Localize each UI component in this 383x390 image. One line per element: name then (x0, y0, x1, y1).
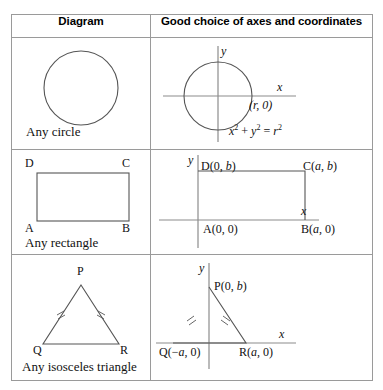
circle-equation-label: x2 + y2 = r2 (229, 124, 282, 139)
eq-y-exp: 2 (256, 123, 260, 132)
cell-circle-diagram: Any circle (12, 38, 151, 150)
tri-x-axis-label: x (279, 327, 284, 342)
tri-coord-p-label: P(0, b) (214, 279, 247, 294)
rect-coord-c-label: C(a, b) (303, 159, 337, 174)
rect-vertex-a-label: A (25, 221, 34, 236)
table: Diagram Good choice of axes and coordina… (11, 14, 373, 381)
tri-coord-q-label: Q(−a, 0) (159, 345, 200, 360)
cell-triangle-coordinates: y x P(0, b) Q(−a, 0) R(a, 0) (151, 255, 373, 381)
circle-point-label: (r, 0) (249, 98, 272, 113)
triangle-axes-diagram (151, 255, 372, 380)
cell-circle-coordinates: y x (r, 0) x2 + y2 = r2 (151, 38, 373, 150)
eq-r-exp: 2 (278, 123, 282, 132)
rect-coord-d-label: D(0, b) (201, 159, 236, 174)
tri-y-axis-label: y (199, 261, 204, 276)
caption-any-rectangle: Any rectangle (25, 235, 98, 251)
caption-any-circle: Any circle (26, 124, 81, 140)
tri-vertex-r-label: R (120, 343, 128, 358)
table-row-triangle: P Q R Any isosceles triangle (12, 255, 373, 381)
rect-vertex-b-label: B (122, 221, 130, 236)
rect-vertex-c-label: C (122, 156, 130, 171)
tri-coord-r-label: R(a, 0) (239, 345, 273, 360)
tick-marks-left (187, 316, 196, 325)
caption-any-isosceles-triangle: Any isosceles triangle (22, 359, 137, 375)
rectangle-axes-diagram (151, 150, 372, 254)
eq-plus: + (241, 124, 248, 138)
rect-coord-b-label: B(a, 0) (301, 222, 335, 237)
eq-equals: = (263, 124, 270, 138)
table-row-rectangle: D C A B Any rectangle (12, 150, 373, 255)
circle-x-axis-label: x (277, 80, 282, 95)
cell-triangle-diagram: P Q R Any isosceles triangle (12, 255, 151, 381)
table-header-row: Diagram Good choice of axes and coordina… (12, 15, 373, 38)
circle-y-axis-label: y (221, 44, 226, 59)
cell-rectangle-diagram: D C A B Any rectangle (12, 150, 151, 255)
geometry-reference-table: Diagram Good choice of axes and coordina… (11, 14, 372, 379)
rect-vertex-d-label: D (25, 156, 34, 171)
cell-rectangle-coordinates: y x D(0, b) C(a, b) A(0, 0) B(a, 0) (151, 150, 373, 255)
header-axes-coordinates: Good choice of axes and coordinates (151, 15, 373, 38)
rect-y-axis-label: y (188, 153, 193, 168)
rect-coord-a-label: A(0, 0) (203, 222, 238, 237)
eq-x-exp: 2 (234, 123, 238, 132)
tri-vertex-p-label: P (77, 264, 84, 279)
rect-x-axis-label: x (301, 204, 306, 219)
tri-vertex-q-label: Q (33, 343, 42, 358)
header-diagram: Diagram (12, 15, 151, 38)
table-row-circle: Any circle y x (12, 38, 373, 150)
